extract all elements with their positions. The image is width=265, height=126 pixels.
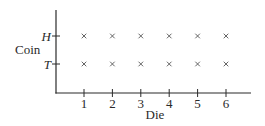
- x-tick-label: 2: [109, 96, 116, 111]
- x-marker-icon: [167, 34, 172, 39]
- axes: [55, 10, 251, 94]
- x-marker-icon: [139, 62, 144, 67]
- sample-space-chart: TH 123456 Coin Die: [0, 0, 265, 126]
- y-ticks: TH: [41, 29, 60, 72]
- x-tick-label: 3: [138, 96, 145, 111]
- x-marker-icon: [82, 62, 87, 67]
- y-tick-label: T: [44, 57, 52, 72]
- x-marker-icon: [139, 34, 144, 39]
- x-tick-label: 1: [81, 96, 88, 111]
- x-axis-label: Die: [146, 107, 165, 122]
- x-marker-icon: [195, 34, 200, 39]
- data-points: [82, 34, 229, 67]
- x-tick-label: 6: [223, 96, 230, 111]
- x-marker-icon: [82, 34, 87, 39]
- x-tick-label: 5: [194, 96, 201, 111]
- y-tick-label: H: [41, 29, 52, 44]
- x-marker-icon: [224, 62, 229, 67]
- x-marker-icon: [195, 62, 200, 67]
- x-marker-icon: [224, 34, 229, 39]
- x-tick-label: 4: [166, 96, 173, 111]
- x-marker-icon: [110, 62, 115, 67]
- x-marker-icon: [167, 62, 172, 67]
- y-axis-label: Coin: [15, 42, 41, 57]
- x-marker-icon: [110, 34, 115, 39]
